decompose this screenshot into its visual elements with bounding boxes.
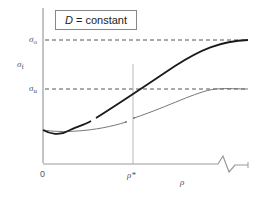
sigma-u-label: σu [29,84,37,95]
x-axis-with-break [43,156,248,172]
y-axis-label: σf [17,60,24,71]
rho-star-label: ρ* [127,171,136,180]
origin-label: 0 [40,169,45,179]
legend-text: = constant [76,14,127,26]
lower-curve-break-dot [125,121,127,123]
legend-variable: D [65,14,73,26]
sigma-o-label: σo [29,35,37,46]
legend-box: D = constant [55,10,137,30]
upper-curve-segment-2 [96,40,248,118]
lower-curve-break-dot [133,117,135,119]
x-axis-label: ρ [180,178,184,187]
upper-curve-segment-1 [43,121,91,134]
lower-curve-segment-2 [134,89,248,118]
diagram: D = constant σo σf σu 0 ρ* ρ [0,0,261,197]
